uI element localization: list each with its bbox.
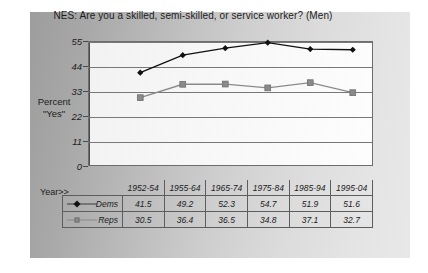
data-point-reps bbox=[307, 80, 313, 86]
y-axis-tick-label: 22 bbox=[36, 111, 82, 122]
y-axis-tick-label: 0 bbox=[36, 161, 82, 172]
y-axis-tick-label: 55 bbox=[36, 36, 82, 47]
data-point-dems bbox=[265, 40, 271, 46]
data-cell: 52.3 bbox=[206, 196, 248, 212]
data-cell: 34.8 bbox=[247, 212, 289, 228]
y-axis-tick-label: 11 bbox=[36, 136, 82, 147]
table-header-row: 1952-541955-641965-741975-841985-941995-… bbox=[63, 180, 373, 196]
table-row: Reps30.536.436.534.837.132.7 bbox=[63, 212, 373, 228]
data-point-dems bbox=[307, 46, 313, 52]
series-layer bbox=[89, 42, 374, 167]
data-cell: 54.7 bbox=[247, 196, 289, 212]
data-cell: 51.9 bbox=[289, 196, 331, 212]
y-axis-tick-mark bbox=[83, 91, 88, 92]
table-row: Dems41.549.252.354.751.951.6 bbox=[63, 196, 373, 212]
data-table: 1952-541955-641965-741975-841985-941995-… bbox=[62, 180, 373, 228]
data-cell: 49.2 bbox=[164, 196, 206, 212]
legend-cell-reps: Reps bbox=[63, 212, 123, 228]
y-axis-tick-label: 33 bbox=[36, 86, 82, 97]
y-axis-tick-mark bbox=[83, 141, 88, 142]
data-cell: 51.6 bbox=[331, 196, 373, 212]
y-axis-label-line1: Percent bbox=[22, 96, 86, 108]
data-point-reps bbox=[350, 90, 356, 96]
data-cell: 36.5 bbox=[206, 212, 248, 228]
data-point-reps bbox=[265, 85, 271, 91]
plot-area bbox=[88, 41, 373, 166]
y-axis-tick-label: 44 bbox=[36, 61, 82, 72]
data-cell: 37.1 bbox=[289, 212, 331, 228]
series-line-reps bbox=[140, 83, 353, 98]
column-header: 1955-64 bbox=[164, 180, 206, 196]
data-point-reps bbox=[222, 81, 228, 87]
y-axis-tick-mark bbox=[83, 66, 88, 67]
legend-cell-dems: Dems bbox=[63, 196, 123, 212]
chart-title: NES: Are you a skilled, semi-skilled, or… bbox=[28, 10, 358, 21]
series-name: Reps bbox=[72, 215, 118, 225]
series-name: Dems bbox=[70, 199, 118, 209]
column-header: 1975-84 bbox=[247, 180, 289, 196]
data-point-dems bbox=[350, 47, 356, 53]
chart-screenshot: NES: Are you a skilled, semi-skilled, or… bbox=[0, 0, 428, 273]
data-point-dems bbox=[180, 52, 186, 58]
data-point-reps bbox=[180, 81, 186, 87]
column-header: 1985-94 bbox=[289, 180, 331, 196]
data-point-dems bbox=[137, 70, 143, 76]
data-cell: 32.7 bbox=[331, 212, 373, 228]
y-axis-tick-mark bbox=[83, 166, 88, 167]
data-cell: 36.4 bbox=[164, 212, 206, 228]
column-header: 1952-54 bbox=[123, 180, 165, 196]
data-point-reps bbox=[137, 95, 143, 101]
data-point-dems bbox=[222, 45, 228, 51]
column-header: 1965-74 bbox=[206, 180, 248, 196]
data-cell: 41.5 bbox=[123, 196, 165, 212]
y-axis-tick-mark bbox=[83, 116, 88, 117]
y-axis-tick-mark bbox=[83, 41, 88, 42]
series-line-dems bbox=[140, 43, 353, 73]
column-header: 1995-04 bbox=[331, 180, 373, 196]
data-cell: 30.5 bbox=[123, 212, 165, 228]
table-corner-cell bbox=[63, 180, 123, 196]
